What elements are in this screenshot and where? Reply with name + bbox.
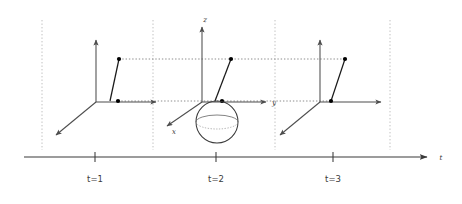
frame-t3-point-upper <box>343 57 347 61</box>
sphere-object <box>196 101 238 143</box>
sphere-outline <box>196 101 238 143</box>
time-axis: t=1 t=2 t=3 t <box>24 152 443 184</box>
vertical-guide-lines <box>42 20 390 150</box>
frame-t3-x-axis <box>280 102 320 135</box>
frame-t1-point-lower <box>116 99 120 103</box>
y-axis-label: y <box>271 99 277 107</box>
sphere-equator-front <box>196 115 238 122</box>
x-axis-label: x <box>172 128 176 136</box>
frame-t2-connector <box>215 59 231 101</box>
time-tick-label-2: t=2 <box>208 174 224 184</box>
frame-t1 <box>56 40 156 135</box>
diagram-svg: z y x t=1 t=2 t=3 t <box>0 0 462 204</box>
point-tracks <box>118 59 345 101</box>
frame-t1-connector <box>110 59 119 101</box>
frame-t2-x-axis <box>167 102 202 126</box>
time-axis-label: t <box>440 154 443 162</box>
z-axis-label: z <box>202 16 207 24</box>
frame-t3-point-lower <box>329 99 333 103</box>
time-tick-label-1: t=1 <box>87 174 103 184</box>
frame-t3-connector <box>331 59 345 101</box>
time-tick-label-3: t=3 <box>325 174 341 184</box>
sphere-equator-back <box>196 122 238 129</box>
diagram-canvas: z y x t=1 t=2 t=3 t <box>0 0 462 204</box>
frame-t1-point-upper <box>117 57 121 61</box>
frame-t1-x-axis <box>56 102 96 135</box>
frame-t3 <box>280 40 381 135</box>
frame-t2: z y x <box>167 16 277 136</box>
frame-t2-point-upper <box>229 57 233 61</box>
